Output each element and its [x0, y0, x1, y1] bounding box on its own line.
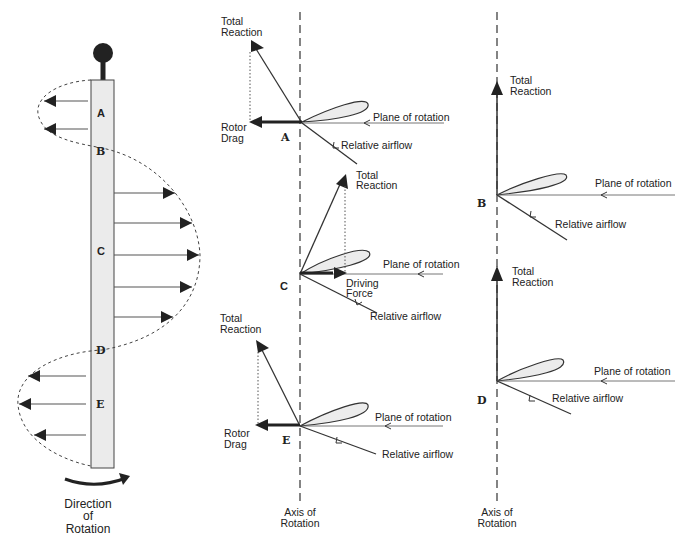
rotation-direction-arrow: [65, 478, 126, 484]
force-diagram-e: Total Reaction Rotor Drag E Plane of rot…: [220, 312, 454, 460]
airfoil-b: [497, 174, 567, 195]
blade-station-a: A: [97, 107, 105, 119]
airflow-label-a: Relative airflow: [341, 139, 413, 151]
rotor-drag-label-e-2: Drag: [224, 438, 247, 450]
total-reaction-arrowhead-d: [491, 266, 503, 281]
station-label-e: E: [282, 434, 290, 447]
total-reaction-arrowhead-b: [491, 81, 503, 95]
plane-label-c: Plane of rotation: [383, 258, 460, 270]
driving-force-label-c-2: Force: [346, 287, 373, 299]
plane-label-b: Plane of rotation: [595, 177, 672, 189]
blade-station-d: D: [96, 344, 106, 357]
blade-station-e: E: [96, 398, 104, 411]
total-reaction-label-d-2: Reaction: [512, 276, 554, 288]
airflow-label-e: Relative airflow: [382, 448, 454, 460]
axis-label-right-2: Rotation: [477, 517, 516, 529]
direction-label-3: Rotation: [66, 522, 111, 536]
total-reaction-label-e-2: Reaction: [220, 323, 262, 335]
blade-station-b: B: [96, 145, 105, 158]
station-label-d: D: [477, 394, 487, 407]
force-diagram-a: Total Reaction Rotor Drag A Plane of rot…: [221, 15, 450, 164]
total-reaction-label-b-2: Reaction: [510, 85, 552, 97]
hub-shaft: [101, 60, 106, 80]
airflow-label-c: Relative airflow: [370, 310, 442, 322]
rotor-drag-arrowhead-e: [255, 419, 268, 431]
plane-label-a: Plane of rotation: [373, 111, 450, 123]
station-label-b: B: [477, 197, 486, 210]
total-reaction-label-a-2: Reaction: [221, 26, 263, 38]
rotor-force-diagram: A B C D E Direction of Rotation Axis of …: [0, 0, 687, 543]
axis-label-middle-2: Rotation: [280, 517, 319, 529]
force-diagram-c: Total Reaction Driving Force C Plane of …: [280, 169, 460, 322]
station-label-c: C: [280, 280, 288, 292]
airfoil-e: [300, 403, 368, 426]
station-label-a: A: [280, 131, 290, 144]
force-diagram-b: Total Reaction B Plane of rotation Relat…: [477, 74, 675, 240]
blade-station-c: C: [97, 245, 105, 257]
plane-label-d: Plane of rotation: [594, 365, 671, 377]
airflow-label-b: Relative airflow: [555, 218, 627, 230]
rotor-drag-label-a-2: Drag: [221, 132, 244, 144]
rotor-drag-arrowhead-a: [249, 116, 262, 128]
direction-label-2: of: [83, 509, 94, 523]
blade-assembly: A B C D E Direction of Rotation: [18, 43, 200, 536]
airfoil-d: [497, 359, 564, 381]
airfoil-a: [302, 101, 368, 122]
airflow-label-d: Relative airflow: [552, 392, 624, 404]
force-diagram-d: Total Reaction D Plane of rotation Relat…: [477, 265, 675, 414]
total-reaction-label-c-2: Reaction: [356, 179, 398, 191]
plane-label-e: Plane of rotation: [375, 411, 452, 423]
total-reaction-arrowhead-c: [336, 174, 348, 189]
